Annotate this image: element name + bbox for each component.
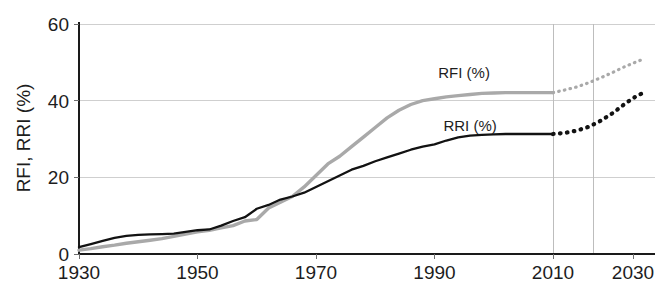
line-chart: 0204060 193019501970199020102030 RFI (%)…	[0, 0, 671, 298]
y-tick-label: 20	[48, 167, 69, 188]
data-series	[79, 59, 645, 251]
y-tick-label: 60	[48, 14, 69, 35]
x-tick-label: 2030	[612, 262, 654, 283]
x-tick-label: 1990	[413, 262, 455, 283]
x-tick-label: 1950	[176, 262, 218, 283]
series-path-rfi	[79, 93, 553, 251]
series-annotation: RFI (%)	[438, 64, 490, 81]
series-annotation: RRI (%)	[443, 117, 496, 134]
series-path-rfi-projection	[553, 59, 645, 93]
y-tick-label: 40	[48, 91, 69, 112]
x-tick-label: 2010	[532, 262, 574, 283]
x-tick-label: 1930	[58, 262, 100, 283]
series-path-rri-projection	[553, 92, 645, 134]
tick-marks	[74, 24, 633, 259]
series-annotations: RFI (%)RRI (%)	[438, 64, 497, 135]
chart-container: 0204060 193019501970199020102030 RFI (%)…	[0, 0, 671, 298]
series-path-rri	[79, 134, 553, 247]
y-axis-title: RFI, RRI (%)	[13, 84, 34, 193]
axes	[79, 22, 655, 254]
vertical-gridlines	[553, 24, 593, 254]
y-tick-labels: 0204060	[48, 14, 69, 265]
x-tick-label: 1970	[295, 262, 337, 283]
x-tick-labels: 193019501970199020102030	[58, 262, 654, 283]
gridlines	[79, 24, 655, 177]
